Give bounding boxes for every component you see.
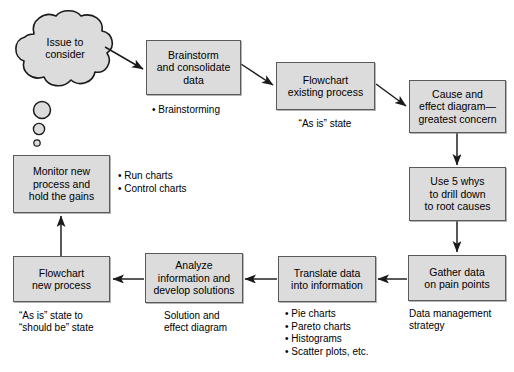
node-gather-data[interactable]: Gather data on pain points: [408, 255, 506, 301]
node-five-whys[interactable]: Use 5 whys to drill down to root causes: [409, 167, 506, 221]
cloud-label: Issue to consider: [20, 36, 110, 61]
node-flowchart-existing[interactable]: Flowchart existing process: [276, 62, 375, 110]
caption-flowchart-existing: “As is” state: [299, 118, 352, 130]
bullets-monitor: • Run charts • Control charts: [118, 170, 187, 195]
bullets-translate-data: • Pie charts • Pareto charts • Histogram…: [285, 308, 369, 358]
node-analyze[interactable]: Analyze information and develop solution…: [145, 253, 243, 303]
node-brainstorm[interactable]: Brainstorm and consolidate data: [146, 40, 241, 95]
footer-credit-line: [0, 366, 514, 372]
caption-flowchart-new: “As is” state to “should be” state: [19, 310, 94, 334]
node-monitor[interactable]: Monitor new process and hold the gains: [13, 155, 110, 213]
flowchart-diagram: Issue to consider Brainstorm and consoli…: [0, 0, 514, 372]
node-cause-effect[interactable]: Cause and effect diagram— greatest conce…: [409, 80, 506, 133]
caption-gather-data: Data management strategy: [409, 308, 491, 332]
arrow-brainstorm-to-flowchart-existing: [241, 64, 273, 85]
arrow-flowchart-existing-to-cause-effect: [376, 84, 406, 106]
bullets-brainstorm: • Brainstorming: [152, 104, 220, 117]
node-flowchart-new[interactable]: Flowchart new process: [13, 256, 110, 302]
caption-analyze: Solution and effect diagram: [164, 310, 227, 334]
arrow-cloud-to-brainstorm: [105, 47, 143, 69]
node-translate-data[interactable]: Translate data into information: [278, 256, 376, 302]
thought-cloud-shape: [16, 11, 112, 146]
